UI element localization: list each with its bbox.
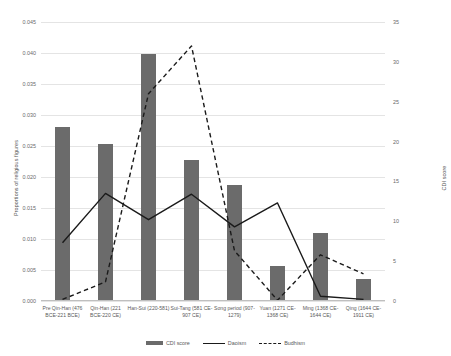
legend-item[interactable]: Budhism bbox=[259, 340, 305, 346]
x-axis-label: Qing (1644 CE-1911 CE) bbox=[342, 305, 385, 319]
line-series-group bbox=[41, 22, 385, 301]
y-axis-title-right: CDI score bbox=[441, 138, 447, 218]
y-tick-label-left: 0.040 bbox=[23, 50, 37, 56]
x-axis-label: Pre Qin-Han (476 BCE-221 BCE) bbox=[41, 305, 84, 319]
y-tick-label-left: 0.045 bbox=[23, 19, 37, 25]
y-tick-label-left: 0.020 bbox=[23, 174, 37, 180]
x-axis-label: Yuan (1271 CE-1368 CE) bbox=[256, 305, 299, 319]
y-tick-label-right: 0 bbox=[393, 298, 396, 304]
legend-item[interactable]: Daoism bbox=[203, 340, 246, 346]
x-axis-category-labels: Pre Qin-Han (476 BCE-221 BCE)Qin-Han (22… bbox=[41, 305, 385, 329]
y-tick-label-left: 0.000 bbox=[23, 298, 37, 304]
legend-label: Daoism bbox=[228, 340, 246, 346]
y-tick-label-right: 20 bbox=[393, 139, 399, 145]
x-axis-label: Song period (907-1279) bbox=[213, 305, 256, 319]
y-tick-label-left: 0.035 bbox=[23, 81, 37, 87]
legend-swatch-icon bbox=[203, 343, 225, 344]
legend-item[interactable]: CDI score bbox=[146, 340, 190, 346]
y-axis-title-left: Proportions of religious figures bbox=[13, 123, 19, 233]
chart-legend: CDI scoreDaoismBudhism bbox=[0, 336, 451, 350]
y-tick-label-right: 5 bbox=[393, 258, 396, 264]
plot-area: 0.0000.0050.0100.0150.0200.0250.0300.035… bbox=[41, 22, 385, 301]
y-tick-label-left: 0.005 bbox=[23, 267, 37, 273]
gridline bbox=[41, 301, 385, 302]
x-axis-label: Han-Sui (220-581) bbox=[127, 305, 170, 312]
y-tick-label-right: 30 bbox=[393, 59, 399, 65]
y-tick-label-right: 15 bbox=[393, 178, 399, 184]
legend-label: Budhism bbox=[284, 340, 305, 346]
chart-container: Proportions of religious figures CDI sco… bbox=[0, 0, 451, 356]
x-axis-label: Ming (1368 CE-1644 CE) bbox=[299, 305, 342, 319]
y-tick-label-right: 10 bbox=[393, 218, 399, 224]
x-axis-label: Qin-Han (221 BCE-220 CE) bbox=[84, 305, 127, 319]
legend-swatch-icon bbox=[146, 341, 163, 346]
y-tick-label-left: 0.030 bbox=[23, 112, 37, 118]
line-series-daoism bbox=[63, 193, 364, 299]
y-tick-label-left: 0.025 bbox=[23, 143, 37, 149]
legend-label: CDI score bbox=[166, 340, 190, 346]
y-tick-label-right: 25 bbox=[393, 99, 399, 105]
legend-swatch-icon bbox=[259, 343, 281, 344]
line-series-budhism bbox=[63, 46, 364, 300]
x-axis-baseline bbox=[41, 300, 385, 301]
y-tick-label-right: 35 bbox=[393, 19, 399, 25]
x-axis-label: Sui-Tang (581 CE-907 CE) bbox=[170, 305, 213, 319]
y-tick-label-left: 0.010 bbox=[23, 236, 37, 242]
y-tick-label-left: 0.015 bbox=[23, 205, 37, 211]
